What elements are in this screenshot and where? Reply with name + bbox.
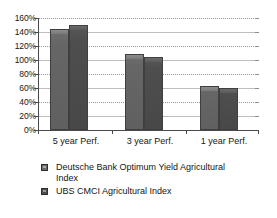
- y-axis-labels: 160% 140% 120% 100% 80% 60% 40% 20% 0%: [2, 0, 36, 160]
- x-axis-line: [38, 130, 259, 131]
- x-category-label-1-year: 1 year Perf.: [187, 136, 261, 147]
- x-tick-div-1: [112, 130, 113, 134]
- x-tick-div-2: [186, 130, 187, 134]
- x-category-label-5-year: 5 year Perf.: [39, 136, 113, 147]
- bar-3-year-deutsche-bank: [125, 54, 144, 130]
- bar-chart: 160% 140% 120% 100% 80% 60% 40% 20% 0%: [0, 0, 277, 218]
- legend-label-deutsche-bank: Deutsche Bank Optimum Yield Agricultural…: [56, 162, 242, 183]
- bar-3-year-ubs-cmci: [144, 57, 163, 131]
- bar-body: [50, 29, 69, 131]
- bar-top-highlight: [201, 87, 218, 91]
- bar-body: [219, 88, 238, 130]
- bar-top-highlight: [51, 30, 68, 34]
- bar-body: [125, 54, 144, 130]
- x-tick-start: [38, 130, 39, 134]
- series-1-swatch-icon: [41, 164, 48, 171]
- bar-top-highlight: [145, 58, 162, 62]
- x-tick-end: [258, 130, 259, 134]
- bar-1-year-ubs-cmci: [219, 88, 238, 130]
- bar-top-highlight: [220, 89, 237, 93]
- y-tick-label-100: 100%: [15, 56, 36, 65]
- legend-item-ubs-cmci: UBS CMCI Agricultural Index: [0, 186, 277, 197]
- y-tick-label-140: 140%: [15, 28, 36, 37]
- plot-area: 160% 140% 120% 100% 80% 60% 40% 20% 0%: [0, 0, 277, 160]
- y-tick-label-120: 120%: [15, 42, 36, 51]
- chart-legend: Deutsche Bank Optimum Yield Agricultural…: [0, 162, 277, 200]
- bar-top-highlight: [126, 55, 143, 59]
- bar-top-highlight: [70, 26, 87, 30]
- bar-body: [69, 25, 88, 130]
- y-tick-label-160: 160%: [15, 14, 36, 23]
- legend-item-deutsche-bank: Deutsche Bank Optimum Yield Agricultural…: [0, 162, 277, 183]
- x-category-label-3-year: 3 year Perf.: [113, 136, 187, 147]
- bar-5-year-ubs-cmci: [69, 25, 88, 130]
- legend-label-ubs-cmci: UBS CMCI Agricultural Index: [56, 186, 172, 197]
- bar-5-year-deutsche-bank: [50, 29, 69, 131]
- series-2-swatch-icon: [41, 188, 48, 195]
- bars-layer: [39, 18, 258, 130]
- x-axis-labels: 5 year Perf. 3 year Perf. 1 year Perf.: [39, 136, 258, 150]
- bar-body: [144, 57, 163, 131]
- bar-body: [200, 86, 219, 130]
- bar-1-year-deutsche-bank: [200, 86, 219, 130]
